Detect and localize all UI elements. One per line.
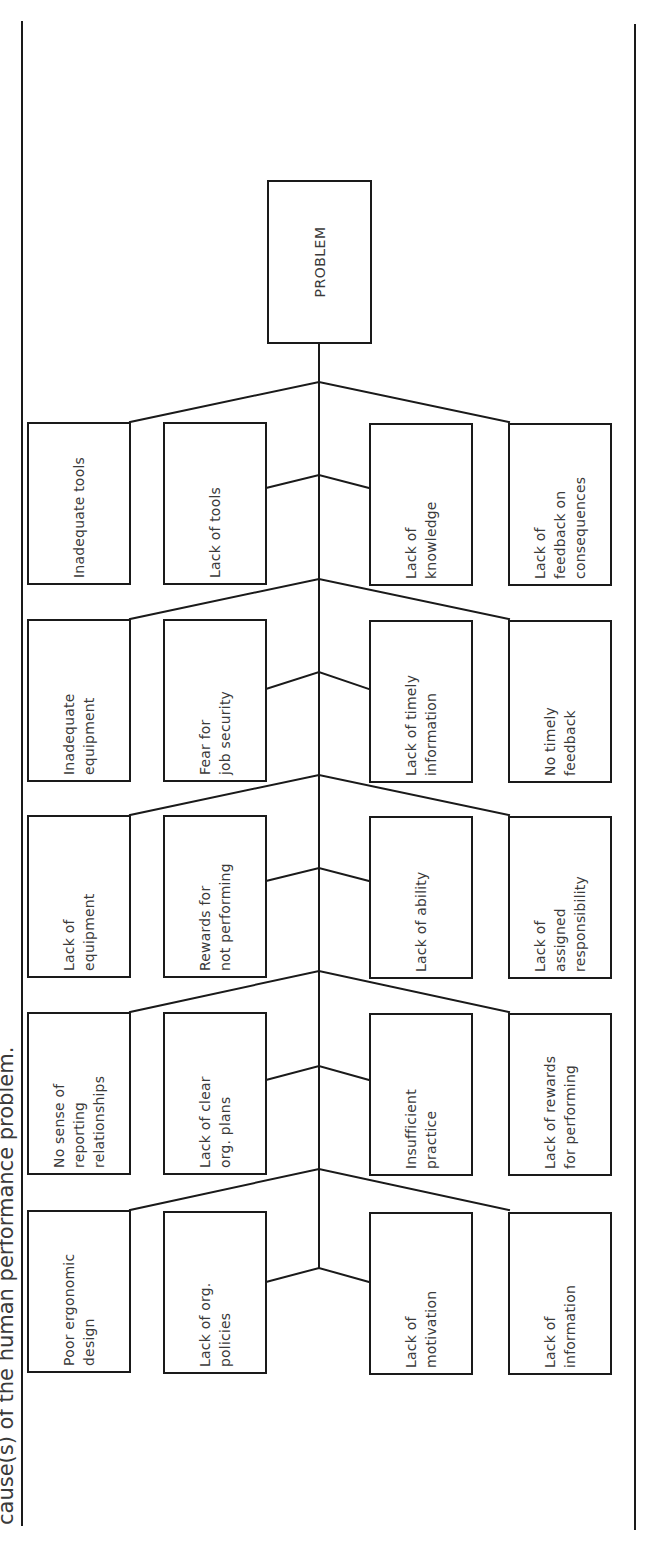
cause-label: Lack of equipment	[59, 823, 99, 971]
cause-label: Lack of knowledge	[401, 431, 441, 579]
cause-box-outer-right: Lack of rewards for performing	[508, 1013, 612, 1176]
cause-label: Insufficient practice	[401, 1021, 441, 1169]
inner-connector	[266, 475, 369, 488]
cause-label: Lack of clear org. plans	[195, 1020, 235, 1168]
cause-label: Inadequate tools	[69, 430, 89, 578]
cause-box-inner-left: Lack of clear org. plans	[163, 1012, 267, 1175]
cause-label: Inadequate equipment	[59, 627, 99, 775]
cause-box-outer-left: Lack of equipment	[27, 815, 131, 978]
cause-label: Poor ergonomic design	[59, 1218, 99, 1366]
cause-label: Lack of timely information	[401, 628, 441, 776]
inner-connector	[266, 868, 369, 881]
cause-box-inner-right: Lack of knowledge	[369, 423, 473, 586]
cause-box-inner-left: Fear for job security	[163, 619, 267, 782]
cause-label: Fear for job security	[195, 627, 235, 775]
cause-box-inner-left: Rewards for not performing	[163, 815, 267, 978]
cause-box-inner-right: Lack of ability	[369, 816, 473, 979]
cause-box-inner-right: Lack of motivation	[369, 1212, 473, 1375]
cause-box-outer-right: Lack of information	[508, 1212, 612, 1375]
cause-box-outer-right: Lack of assigned responsibility	[508, 816, 612, 979]
problem-box: PROBLEM	[267, 180, 372, 344]
cause-label: Lack of org. policies	[195, 1219, 235, 1367]
cause-label: No timely feedback	[540, 628, 580, 776]
cause-label: Lack of assigned responsibility	[530, 824, 590, 972]
problem-label: PROBLEM	[310, 187, 330, 337]
inner-connector	[266, 672, 369, 689]
cause-box-inner-right: Lack of timely information	[369, 620, 473, 783]
inner-connector	[266, 1066, 369, 1080]
figure-caption: cause(s) of the human performance proble…	[0, 905, 18, 1525]
cause-label: Lack of feedback on consequences	[530, 431, 590, 579]
cause-box-outer-left: Poor ergonomic design	[27, 1210, 131, 1373]
cause-label: No sense of reporting relationships	[49, 1020, 109, 1168]
cause-box-outer-right: No timely feedback	[508, 620, 612, 783]
cause-label: Lack of ability	[411, 824, 431, 972]
cause-box-outer-left: Inadequate equipment	[27, 619, 131, 782]
cause-label: Lack of motivation	[401, 1220, 441, 1368]
cause-label: Lack of rewards for performing	[540, 1021, 580, 1169]
cause-box-inner-right: Insufficient practice	[369, 1013, 473, 1176]
inner-connector	[266, 1268, 369, 1282]
cause-box-inner-left: Lack of org. policies	[163, 1211, 267, 1374]
cause-label: Rewards for not performing	[195, 823, 235, 971]
cause-label: Lack of information	[540, 1220, 580, 1368]
cause-box-outer-left: Inadequate tools	[27, 422, 131, 585]
cause-label: Lack of tools	[205, 430, 225, 578]
cause-box-inner-left: Lack of tools	[163, 422, 267, 585]
cause-box-outer-right: Lack of feedback on consequences	[508, 423, 612, 586]
cause-box-outer-left: No sense of reporting relationships	[27, 1012, 131, 1175]
